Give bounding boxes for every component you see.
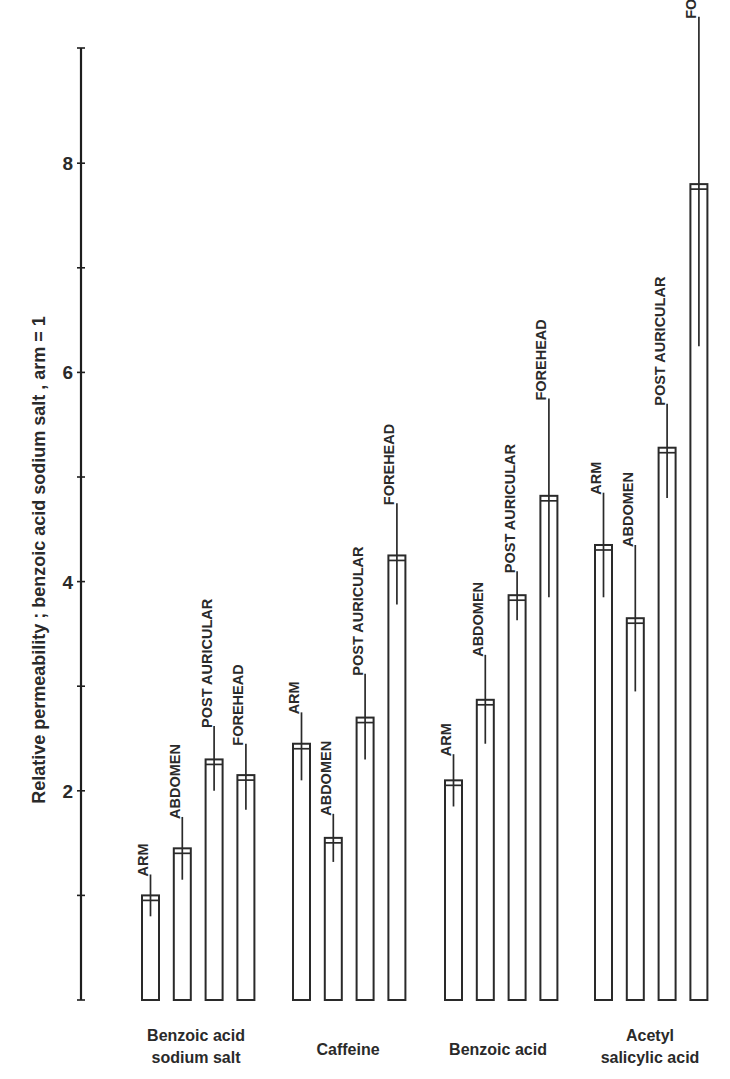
y-tick-label: 2	[62, 781, 73, 802]
y-tick-label: 6	[62, 362, 73, 383]
bar-label: POST AURICULAR	[652, 276, 668, 406]
bar-group-item: POST AURICULAR	[350, 546, 374, 1000]
y-axis-label: Relative permeability ; benzoic acid sod…	[29, 316, 49, 804]
bar-abdomen	[325, 838, 342, 1000]
bars-layer: ARMARMARMARMABDOMENABDOMENABDOMENABDOMEN…	[135, 0, 707, 1000]
bar-post-auricular	[357, 718, 374, 1000]
bar-label: ABDOMEN	[318, 741, 334, 816]
bar-group-item: FOREHEAD	[533, 319, 557, 1000]
bar-label: POST AURICULAR	[502, 443, 518, 573]
bar-label: ABDOMEN	[620, 472, 636, 547]
bar-label: ABDOMEN	[470, 582, 486, 657]
bar-post-auricular	[206, 759, 223, 1000]
bar-label: FOREHEAD	[381, 424, 397, 505]
category-labels: Benzoic acidsodium saltCaffeineBenzoic a…	[147, 1027, 699, 1066]
bar-group-item: ARM	[438, 723, 462, 1000]
bar-group-item: ABDOMEN	[620, 472, 644, 1000]
category-label: sodium salt	[152, 1049, 242, 1066]
bar-forehead	[388, 555, 405, 1000]
bar-group-item: POST AURICULAR	[652, 276, 676, 1000]
bar-arm	[445, 780, 462, 1000]
bar-label: ARM	[588, 462, 604, 495]
bar-label: POST AURICULAR	[199, 598, 215, 728]
bar-group-item: ARM	[286, 681, 310, 1000]
bar-abdomen	[477, 700, 494, 1000]
category-label: salicylic acid	[601, 1049, 700, 1066]
bar-group-item: ABDOMEN	[470, 582, 494, 1000]
bar-group-item: FOREHEAD	[230, 664, 254, 1000]
bar-label: FOREHEAD	[683, 0, 699, 19]
y-tick-label: 8	[62, 153, 73, 174]
bar-group-item: FOREHEAD	[381, 424, 405, 1000]
bar-group-item: ABDOMEN	[318, 741, 342, 1000]
bar-label: FOREHEAD	[230, 664, 246, 745]
bar-group-item: ARM	[588, 462, 612, 1000]
bar-arm	[293, 744, 310, 1000]
bar-label: POST AURICULAR	[350, 546, 366, 676]
bar-arm	[595, 545, 612, 1000]
category-label: Benzoic acid	[147, 1027, 245, 1044]
category-label: Benzoic acid	[449, 1041, 547, 1058]
bar-label: ARM	[286, 681, 302, 714]
category-label: Caffeine	[316, 1041, 379, 1058]
bar-group-item: FOREHEAD	[683, 0, 707, 1000]
bar-group-item: POST AURICULAR	[502, 443, 526, 1000]
bar-label: ARM	[438, 723, 454, 756]
bar-label: ARM	[135, 843, 151, 876]
bar-group-item: ABDOMEN	[167, 744, 191, 1000]
y-tick-label: 4	[62, 572, 73, 593]
bar-group-item: POST AURICULAR	[199, 598, 223, 1000]
permeability-bar-chart: 2468 Relative permeability ; benzoic aci…	[0, 0, 730, 1079]
bar-post-auricular	[659, 448, 676, 1000]
bar-label: FOREHEAD	[533, 319, 549, 400]
y-axis: 2468	[62, 48, 85, 1000]
bar-label: ABDOMEN	[167, 744, 183, 819]
bar-post-auricular	[509, 595, 526, 1000]
bar-group-item: ARM	[135, 843, 159, 1000]
category-label: Acetyl	[626, 1027, 674, 1044]
